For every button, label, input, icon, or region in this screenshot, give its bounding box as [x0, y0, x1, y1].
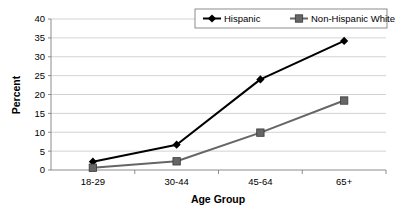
line-chart: 0510152025303540 18-2930-4445-6465+ Perc… — [0, 0, 404, 209]
y-tick-label: 35 — [34, 32, 45, 43]
legend-marker-swatch — [295, 15, 302, 22]
data-point-marker — [257, 129, 264, 136]
y-tick-label: 30 — [34, 51, 45, 62]
x-tick-label: 30-44 — [164, 176, 188, 187]
data-point-marker — [173, 158, 180, 165]
chart-legend: HispanicNon-Hispanic White — [195, 9, 395, 28]
legend-label: Hispanic — [224, 13, 261, 24]
y-tick-label: 20 — [34, 89, 45, 100]
x-tick-label: 45-64 — [248, 176, 272, 187]
y-axis-title: Percent — [10, 75, 22, 114]
data-point-marker — [89, 164, 96, 171]
y-tick-label: 5 — [40, 146, 45, 157]
legend-items-group: HispanicNon-Hispanic White — [203, 13, 395, 24]
x-axis-title: Age Group — [191, 193, 245, 205]
y-tick-label: 25 — [34, 70, 45, 81]
chart-container: 0510152025303540 18-2930-4445-6465+ Perc… — [0, 0, 404, 209]
y-tick-label: 10 — [34, 127, 45, 138]
y-tick-label: 0 — [40, 164, 45, 175]
legend-label: Non-Hispanic White — [311, 13, 395, 24]
x-tick-label: 18-29 — [81, 176, 105, 187]
y-tick-label: 40 — [34, 13, 45, 24]
y-tick-label: 15 — [34, 108, 45, 119]
x-tick-label: 65+ — [336, 176, 353, 187]
data-point-marker — [340, 97, 347, 104]
